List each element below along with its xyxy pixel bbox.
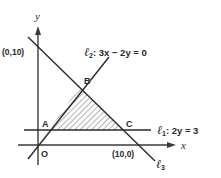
point-b-label: B [84,76,91,86]
x-axis-label: x [180,139,186,151]
origin-label: O [41,149,48,159]
line-l3-label: ℓ3 [156,157,165,171]
feasible-region-diagram: y x (0,10) (10,0) O A B C ℓ2: 3x − 2y = … [0,0,221,178]
line-l1-label: ℓ1: 2y = 3 [157,123,198,137]
y-intercept-label: (0,10) [2,47,24,57]
point-c-label: C [126,119,133,129]
x-intercept-label: (10,0) [112,149,134,159]
line-l2-label: ℓ2: 3x − 2y = 0 [84,45,147,59]
y-axis-arrow-icon [35,26,41,35]
y-axis-label: y [34,10,40,22]
x-axis-arrow-icon [167,142,176,148]
point-a-label: A [42,119,49,129]
